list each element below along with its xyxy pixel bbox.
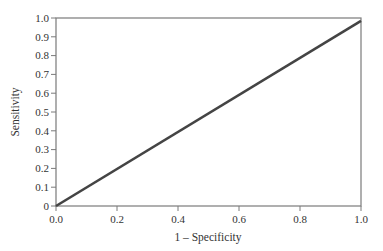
x-tick-label: 0.8	[293, 213, 307, 225]
y-tick-label: 0.4	[35, 125, 49, 137]
y-tick-label: 1.0	[35, 12, 49, 24]
y-tick-label: 0.8	[35, 49, 49, 61]
y-tick-label: 0.7	[35, 68, 49, 80]
x-tick-label: 0.6	[232, 213, 246, 225]
y-tick-label: 0.5	[35, 106, 49, 118]
roc-chart: 00.10.20.30.40.50.60.70.80.91.0 0.00.20.…	[0, 0, 383, 251]
y-tick-label: 0.9	[35, 31, 49, 43]
y-axis-title: Sensitivity	[9, 87, 22, 136]
roc-curve-line	[56, 21, 361, 206]
x-axis: 0.00.20.40.60.81.0	[49, 206, 368, 225]
data-series	[56, 21, 361, 206]
y-tick-label: 0.2	[35, 162, 49, 174]
y-tick-label: 0.1	[35, 181, 49, 193]
x-tick-label: 0.2	[110, 213, 124, 225]
y-tick-label: 0.3	[35, 143, 49, 155]
x-axis-title: 1 – Specificity	[174, 231, 241, 244]
x-tick-label: 0.4	[171, 213, 185, 225]
y-tick-label: 0	[44, 200, 50, 212]
y-axis: 00.10.20.30.40.50.60.70.80.91.0	[35, 12, 56, 212]
y-tick-label: 0.6	[35, 87, 49, 99]
x-tick-label: 0.0	[49, 213, 63, 225]
x-tick-label: 1.0	[354, 213, 368, 225]
